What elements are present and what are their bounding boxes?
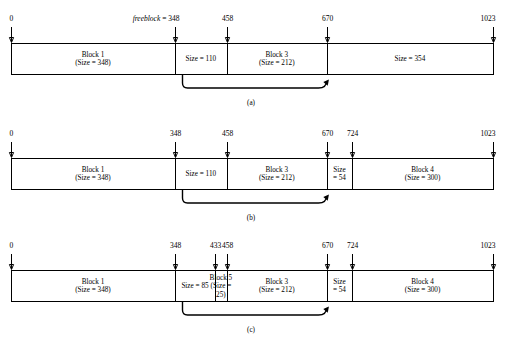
coalesce-link-arrow: [183, 302, 329, 315]
tick-label: 1023: [481, 14, 496, 23]
tick-arrow: [325, 27, 329, 43]
tick-arrow: [173, 254, 177, 270]
tick-label: 724: [347, 129, 359, 138]
tick-arrow: [225, 27, 229, 43]
tick-label: 670: [322, 129, 334, 138]
coalesce-link-arrow: [183, 190, 329, 203]
tick-label: 670: [322, 14, 334, 23]
panel-caption: (a): [247, 99, 256, 107]
tick-label: 1023: [481, 129, 496, 138]
cell-label: Size = 85: [181, 282, 209, 290]
panel-b: 03484586707241023Block 1(Size = 348)Size…: [0, 115, 506, 227]
cell-label: Size= 54: [333, 278, 346, 295]
cell-label: Size= 54: [333, 166, 346, 183]
tick-label: 458: [222, 14, 234, 23]
tick-label: 458: [222, 241, 234, 250]
tick-label: 348: [170, 129, 182, 138]
tick-label: 1023: [481, 241, 496, 250]
panel-caption: (b): [247, 214, 256, 222]
tick-label: 0: [10, 241, 14, 250]
tick-arrow: [213, 254, 217, 270]
tick-arrow: [173, 27, 177, 43]
tick-label: 670: [322, 241, 334, 250]
panel-c: 03484334586707241023Block 1(Size = 348)S…: [0, 227, 506, 352]
tick-label: 724: [347, 241, 359, 250]
cell-label: Size = 110: [186, 55, 217, 63]
cell-label: Size = 354: [394, 55, 425, 63]
tick-label: 458: [222, 129, 234, 138]
tick-label: 0: [10, 14, 14, 23]
tick-arrow: [350, 142, 354, 158]
panel-a: 0freeblock = 3484586701023Block 1(Size =…: [0, 0, 506, 115]
tick-label: freeblock = 348: [133, 14, 180, 23]
tick-label: 348: [170, 241, 182, 250]
coalesce-link-arrow: [183, 75, 329, 88]
tick-label: 0: [10, 129, 14, 138]
tick-arrow: [325, 254, 329, 270]
cell-label: Size = 110: [186, 170, 217, 178]
tick-arrow: [491, 254, 495, 270]
tick-arrow: [225, 142, 229, 158]
tick-arrow: [9, 142, 13, 158]
tick-arrow: [325, 142, 329, 158]
tick-arrow: [491, 27, 495, 43]
tick-label: 433: [210, 241, 222, 250]
tick-arrow: [350, 254, 354, 270]
tick-arrow: [9, 254, 13, 270]
tick-arrow: [173, 142, 177, 158]
tick-arrow: [9, 27, 13, 43]
panel-caption: (c): [247, 326, 256, 334]
tick-arrow: [225, 254, 229, 270]
tick-arrow: [491, 142, 495, 158]
